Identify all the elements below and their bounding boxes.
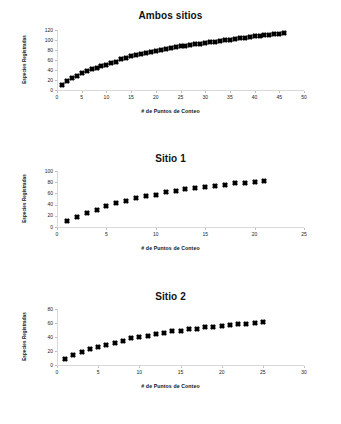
data-point xyxy=(211,324,217,330)
x-tick xyxy=(205,91,206,93)
x-tick-label: 15 xyxy=(195,232,215,237)
data-point xyxy=(74,214,80,220)
x-tick xyxy=(263,366,264,368)
x-tick-label: 10 xyxy=(96,95,116,100)
chart-sitio-1: Sitio 1 0204060801000510152025Especies R… xyxy=(0,145,341,283)
y-tick xyxy=(55,351,57,352)
data-point xyxy=(219,323,225,329)
y-tick-label: 20 xyxy=(33,78,53,83)
data-point xyxy=(281,30,287,36)
y-tick-label: 0 xyxy=(33,225,53,230)
data-point xyxy=(169,329,175,335)
data-point xyxy=(242,180,248,186)
y-tick xyxy=(55,70,57,71)
data-point xyxy=(143,193,149,199)
y-tick-label: 80 xyxy=(33,48,53,53)
y-tick xyxy=(55,323,57,324)
y-tick-label: 60 xyxy=(33,321,53,326)
chart-title: Ambos sitios xyxy=(0,0,341,22)
x-tick-label: 45 xyxy=(269,95,289,100)
data-point xyxy=(112,340,118,346)
x-tick-label: 20 xyxy=(146,95,166,100)
data-point xyxy=(128,336,134,342)
y-tick-label: 120 xyxy=(33,28,53,33)
y-tick-label: 40 xyxy=(33,335,53,340)
x-tick xyxy=(57,228,58,230)
y-tick xyxy=(55,40,57,41)
data-point xyxy=(64,219,70,225)
data-point xyxy=(145,333,151,339)
data-point xyxy=(161,330,167,336)
x-tick xyxy=(222,366,223,368)
x-tick-label: 5 xyxy=(96,232,116,237)
data-point xyxy=(212,183,218,189)
x-tick xyxy=(139,366,140,368)
y-tick-label: 100 xyxy=(33,169,53,174)
x-tick-label: 20 xyxy=(245,232,265,237)
x-tick xyxy=(255,91,256,93)
x-tick xyxy=(156,91,157,93)
data-point xyxy=(71,352,77,358)
x-tick xyxy=(181,366,182,368)
chart-ambos-sitios: Ambos sitios 020406080100120051015202530… xyxy=(0,0,341,145)
y-tick xyxy=(55,205,57,206)
data-point xyxy=(252,320,258,326)
x-tick xyxy=(255,228,256,230)
chart-title: Sitio 2 xyxy=(0,283,341,303)
x-tick-label: 0 xyxy=(47,370,67,375)
data-point xyxy=(153,192,159,198)
y-tick-label: 100 xyxy=(33,38,53,43)
y-tick-label: 60 xyxy=(33,191,53,196)
data-point xyxy=(260,319,266,325)
y-tick-label: 60 xyxy=(33,58,53,63)
x-tick-label: 10 xyxy=(129,370,149,375)
data-point xyxy=(192,186,198,192)
data-point xyxy=(94,207,100,213)
x-tick-label: 15 xyxy=(121,95,141,100)
data-point xyxy=(227,322,233,328)
x-tick-label: 30 xyxy=(195,95,215,100)
data-point xyxy=(163,189,169,195)
y-axis-title: Especies Registradas xyxy=(22,174,27,224)
data-point xyxy=(202,184,208,190)
x-tick-label: 30 xyxy=(294,370,314,375)
x-tick-label: 25 xyxy=(253,370,273,375)
data-point xyxy=(183,187,189,193)
x-tick xyxy=(106,91,107,93)
data-point xyxy=(62,356,68,362)
chart-title: Sitio 1 xyxy=(0,145,341,165)
x-tick xyxy=(304,91,305,93)
y-tick xyxy=(55,309,57,310)
x-tick-label: 0 xyxy=(47,95,67,100)
x-tick-label: 25 xyxy=(294,232,314,237)
x-tick xyxy=(156,228,157,230)
x-tick xyxy=(304,366,305,368)
x-tick xyxy=(131,91,132,93)
y-tick-label: 0 xyxy=(33,88,53,93)
x-tick-label: 0 xyxy=(47,232,67,237)
data-point xyxy=(202,324,208,330)
y-tick xyxy=(55,337,57,338)
y-tick xyxy=(55,50,57,51)
x-axis-title: # de Puntos de Conteo xyxy=(0,383,341,389)
data-point xyxy=(186,326,192,332)
y-tick-label: 80 xyxy=(33,307,53,312)
y-tick xyxy=(55,216,57,217)
x-tick xyxy=(230,91,231,93)
x-tick-label: 5 xyxy=(88,370,108,375)
data-point xyxy=(222,182,228,188)
y-tick xyxy=(55,193,57,194)
data-point xyxy=(113,201,119,207)
data-point xyxy=(173,188,179,194)
x-tick-label: 20 xyxy=(212,370,232,375)
y-tick xyxy=(55,171,57,172)
data-point xyxy=(133,196,139,202)
y-axis-title: Especies Registradas xyxy=(22,312,27,362)
data-point xyxy=(87,346,93,352)
x-tick-label: 15 xyxy=(171,370,191,375)
y-tick xyxy=(55,182,57,183)
y-tick-label: 40 xyxy=(33,68,53,73)
y-tick-label: 20 xyxy=(33,213,53,218)
y-axis-line xyxy=(57,309,58,365)
x-tick-label: 50 xyxy=(294,95,314,100)
